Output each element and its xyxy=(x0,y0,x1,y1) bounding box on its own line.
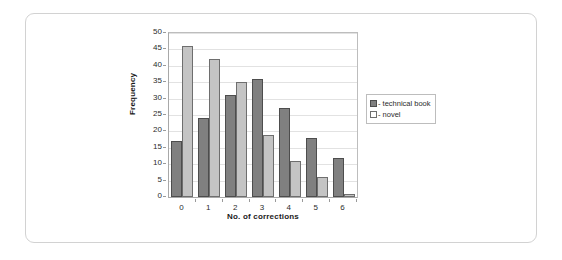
x-tick-mark xyxy=(302,199,303,202)
bar xyxy=(252,79,263,197)
bar xyxy=(306,138,317,197)
chart-legend: - technical book - novel xyxy=(366,94,436,124)
y-tick-label: 30 xyxy=(153,94,162,102)
x-tick-mark xyxy=(249,199,250,202)
bar xyxy=(198,118,209,197)
x-tick-label: 1 xyxy=(206,203,210,212)
bar xyxy=(317,177,328,197)
bar xyxy=(225,95,236,197)
y-tick-mark xyxy=(163,180,166,181)
gridline xyxy=(169,33,357,34)
bar xyxy=(171,141,182,197)
x-tick-mark xyxy=(275,199,276,202)
y-tick-mark xyxy=(163,98,166,99)
legend-item-technical-book[interactable]: - technical book xyxy=(370,98,431,109)
x-tick-mark xyxy=(195,199,196,202)
bar xyxy=(263,135,274,197)
plot-area xyxy=(168,32,358,198)
y-axis-title: Frequency xyxy=(128,73,137,115)
y-tick-mark xyxy=(163,65,166,66)
x-axis-title: No. of corrections xyxy=(168,212,358,221)
y-tick-mark xyxy=(163,48,166,49)
gridline xyxy=(169,66,357,67)
bar xyxy=(290,161,301,197)
legend-item-label: - technical book xyxy=(378,99,431,108)
x-tick-mark xyxy=(222,199,223,202)
y-tick-mark xyxy=(163,114,166,115)
y-tick-label: 0 xyxy=(158,192,162,200)
y-tick-label: 40 xyxy=(153,61,162,69)
gridline xyxy=(169,99,357,100)
gridline xyxy=(169,115,357,116)
y-tick-mark xyxy=(163,147,166,148)
y-tick-mark xyxy=(163,81,166,82)
x-tick-label: 4 xyxy=(287,203,291,212)
y-tick-label: 20 xyxy=(153,126,162,134)
y-tick-mark xyxy=(163,130,166,131)
y-tick-label: 5 xyxy=(158,176,162,184)
y-tick-mark xyxy=(163,163,166,164)
bar-chart: Frequency 05101520253035404550 0123456 N… xyxy=(0,0,562,260)
legend-swatch-icon xyxy=(370,100,377,107)
gridline xyxy=(169,131,357,132)
x-tick-label: 5 xyxy=(313,203,317,212)
y-tick-label: 15 xyxy=(153,143,162,151)
gridline xyxy=(169,49,357,50)
legend-item-novel[interactable]: - novel xyxy=(370,109,431,120)
y-axis: 05101520253035404550 xyxy=(140,32,166,198)
legend-swatch-icon xyxy=(370,111,377,118)
gridline xyxy=(169,82,357,83)
bar xyxy=(333,158,344,197)
y-tick-label: 10 xyxy=(153,159,162,167)
y-tick-label: 50 xyxy=(153,28,162,36)
bar xyxy=(236,82,247,197)
y-tick-mark xyxy=(163,32,166,33)
x-tick-label: 2 xyxy=(233,203,237,212)
legend-item-label: - novel xyxy=(378,110,401,119)
bar xyxy=(209,59,220,197)
x-tick-label: 3 xyxy=(260,203,264,212)
y-tick-label: 45 xyxy=(153,44,162,52)
bar xyxy=(279,108,290,197)
bar xyxy=(182,46,193,197)
y-tick-mark xyxy=(163,196,166,197)
x-tick-mark xyxy=(329,199,330,202)
y-tick-label: 25 xyxy=(153,110,162,118)
x-tick-mark xyxy=(356,199,357,202)
bar xyxy=(344,194,355,197)
x-tick-label: 0 xyxy=(179,203,183,212)
y-tick-label: 35 xyxy=(153,77,162,85)
x-tick-label: 6 xyxy=(340,203,344,212)
